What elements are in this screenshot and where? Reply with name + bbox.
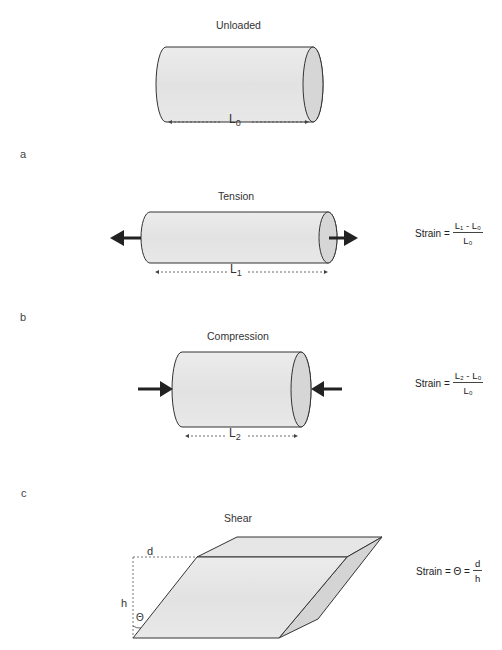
- compression-arrow-right-icon: [311, 381, 342, 397]
- formula-denominator: h: [475, 571, 480, 584]
- shear-angle-arc: [133, 626, 141, 628]
- length-subscript: 2: [236, 432, 241, 442]
- unloaded-length-label: L0: [229, 112, 241, 128]
- formula-denominator: L₀: [463, 383, 472, 396]
- compression-title: Compression: [207, 330, 269, 342]
- formula-fraction: L₁ - L₀ L₀: [453, 220, 483, 246]
- shear-block: [133, 537, 382, 638]
- tension-cylinder: [141, 212, 337, 263]
- shear-strain-formula: Strain = Θ = d h: [416, 558, 482, 584]
- formula-numerator: L₂ - L₀: [453, 370, 484, 383]
- tension-length-label: L1: [230, 262, 242, 278]
- formula-lhs: Strain =: [415, 378, 450, 389]
- unloaded-title: Unloaded: [216, 19, 261, 31]
- shear-d-label: d: [147, 545, 153, 557]
- tension-strain-formula: Strain = L₁ - L₀ L₀: [415, 220, 483, 246]
- strain-diagram-graphics: [0, 0, 502, 650]
- formula-lhs: Strain =: [415, 228, 450, 239]
- panel-letter-b: b: [20, 311, 26, 323]
- formula-numerator: d: [473, 558, 482, 571]
- compression-length-label: L2: [229, 426, 241, 442]
- panel-letter-a: a: [20, 148, 26, 160]
- formula-denominator: L₀: [463, 233, 472, 246]
- unloaded-cylinder: [156, 47, 323, 122]
- tension-title: Tension: [218, 190, 254, 202]
- formula-fraction: L₂ - L₀ L₀: [453, 370, 484, 396]
- formula-fraction: d h: [473, 558, 482, 584]
- compression-arrow-left-icon: [138, 381, 173, 397]
- formula-lhs: Strain = Θ =: [416, 566, 470, 577]
- panel-letter-c: c: [21, 487, 27, 499]
- compression-cylinder: [172, 352, 311, 427]
- compression-strain-formula: Strain = L₂ - L₀ L₀: [415, 370, 483, 396]
- length-subscript: 1: [237, 268, 242, 278]
- length-symbol: L: [230, 262, 237, 276]
- length-symbol: L: [229, 112, 236, 126]
- tension-arrow-left-icon: [110, 230, 141, 246]
- formula-numerator: L₁ - L₀: [453, 220, 483, 233]
- compression-length-dimension: [185, 434, 298, 438]
- shear-title: Shear: [224, 512, 252, 524]
- shear-theta-label: Θ: [136, 612, 144, 623]
- length-subscript: 0: [236, 118, 241, 128]
- length-symbol: L: [229, 426, 236, 440]
- shear-h-label: h: [121, 597, 127, 609]
